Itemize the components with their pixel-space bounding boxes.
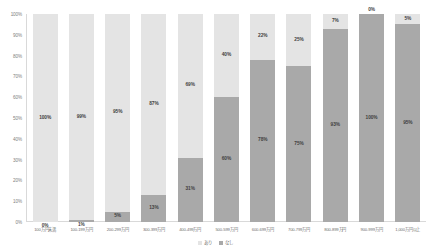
- bar-segment-nashi[interactable]: 13%: [141, 195, 166, 222]
- x-axis-labels: 100万円未満100-199万円200-299万円300-399万円400-49…: [27, 228, 426, 232]
- chart-legend: ありなし: [0, 241, 431, 245]
- legend-item[interactable]: なし: [219, 241, 233, 245]
- bar-value-label-nashi: 78%: [258, 138, 267, 143]
- bar-value-label-ari: 40%: [222, 53, 231, 58]
- bar-segment-nashi[interactable]: 95%: [395, 24, 420, 222]
- legend-label: あり: [204, 241, 212, 245]
- bar-group: 22%78%: [245, 14, 281, 222]
- bar-group: 0%100%: [353, 14, 389, 222]
- bar-segment-nashi[interactable]: 75%: [286, 66, 311, 222]
- stacked-bar[interactable]: 22%78%: [250, 14, 275, 222]
- bar-segment-ari[interactable]: 87%: [141, 14, 166, 195]
- bar-segment-ari[interactable]: 100%: [33, 14, 58, 222]
- bar-segment-nashi[interactable]: 78%: [250, 60, 275, 222]
- bar-value-label-ari: 7%: [332, 19, 339, 24]
- x-axis-tick: 600-699万円: [245, 228, 281, 232]
- stacked-bar[interactable]: 40%60%: [214, 14, 239, 222]
- bar-group: 5%95%: [390, 14, 426, 222]
- x-axis-tick: 100-199万円: [63, 228, 99, 232]
- bar-value-label-ari: 95%: [113, 110, 122, 115]
- legend-label: なし: [225, 241, 233, 245]
- legend-item[interactable]: あり: [198, 241, 212, 245]
- bar-value-label-nashi: 5%: [114, 214, 121, 219]
- y-axis-tick: 100%: [0, 12, 22, 17]
- bar-segment-ari[interactable]: 40%: [214, 14, 239, 97]
- bar-value-label-nashi: 13%: [149, 206, 158, 211]
- bar-segment-nashi[interactable]: 93%: [323, 29, 348, 222]
- bar-group: 69%31%: [172, 14, 208, 222]
- bar-value-label-ari: 22%: [258, 34, 267, 39]
- bar-group: 40%60%: [208, 14, 244, 222]
- x-axis-tick: 900-999万円: [353, 228, 389, 232]
- legend-swatch-icon: [198, 241, 202, 245]
- bar-group: 7%93%: [317, 14, 353, 222]
- y-axis-tick: 40%: [0, 136, 22, 141]
- legend-swatch-icon: [219, 241, 223, 245]
- x-axis-tick: 400-499万円: [172, 228, 208, 232]
- bar-value-label-nashi: 31%: [186, 187, 195, 192]
- bar-group: 87%13%: [136, 14, 172, 222]
- bar-segment-nashi[interactable]: 5%: [105, 212, 130, 222]
- bar-value-label-ari: 99%: [77, 115, 86, 120]
- bar-group: 100%0%: [27, 14, 63, 222]
- bar-value-label-nashi: 75%: [294, 142, 303, 147]
- bar-segment-ari[interactable]: 95%: [105, 14, 130, 212]
- bar-value-label-ari: 87%: [149, 102, 158, 107]
- bar-value-label-ari: 5%: [404, 17, 411, 22]
- stacked-bar[interactable]: 95%5%: [105, 14, 130, 222]
- y-axis-tick: 70%: [0, 74, 22, 79]
- bar-segment-nashi[interactable]: 31%: [178, 158, 203, 222]
- bar-value-label-nashi: 60%: [222, 157, 231, 162]
- stacked-bar-chart: 100%90%80%70%60%50%40%30%20%10%0% 100%0%…: [0, 0, 431, 252]
- y-axis-tick: 60%: [0, 95, 22, 100]
- bar-segment-ari[interactable]: 99%: [69, 14, 94, 220]
- stacked-bar[interactable]: 87%13%: [141, 14, 166, 222]
- bar-segment-ari[interactable]: 5%: [395, 14, 420, 24]
- bar-value-label-ari: 69%: [186, 83, 195, 88]
- x-axis-tick: 300-399万円: [136, 228, 172, 232]
- bar-value-label-nashi: 100%: [366, 116, 378, 121]
- bar-value-label-nashi: 95%: [403, 121, 412, 126]
- y-axis-tick: 20%: [0, 178, 22, 183]
- bar-segment-nashi[interactable]: 60%: [214, 97, 239, 222]
- bar-value-label-ari: 0%: [368, 8, 375, 13]
- y-axis-tick: 90%: [0, 32, 22, 37]
- bar-value-label-nashi: 93%: [331, 123, 340, 128]
- bar-value-label-ari: 25%: [294, 38, 303, 43]
- x-axis-tick: 800-899万円: [317, 228, 353, 232]
- y-axis-tick: 50%: [0, 116, 22, 121]
- y-axis-tick: 10%: [0, 199, 22, 204]
- x-axis-tick: 700-799万円: [281, 228, 317, 232]
- bar-segment-ari[interactable]: 7%: [323, 14, 348, 29]
- y-axis-labels: 100%90%80%70%60%50%40%30%20%10%0%: [0, 14, 24, 222]
- bar-segment-ari[interactable]: 69%: [178, 14, 203, 158]
- x-axis-tick: 200-299万円: [100, 228, 136, 232]
- x-axis-tick: 100万円未満: [27, 228, 63, 232]
- bar-group: 99%1%: [63, 14, 99, 222]
- bar-segment-nashi[interactable]: 1%: [69, 220, 94, 222]
- stacked-bar[interactable]: 0%100%: [359, 14, 384, 222]
- stacked-bar[interactable]: 7%93%: [323, 14, 348, 222]
- y-axis-tick: 0%: [0, 220, 22, 225]
- stacked-bar[interactable]: 100%0%: [33, 14, 58, 222]
- bar-group: 25%75%: [281, 14, 317, 222]
- stacked-bar[interactable]: 25%75%: [286, 14, 311, 222]
- stacked-bar[interactable]: 69%31%: [178, 14, 203, 222]
- x-axis-tick: 1,000万円以上: [390, 228, 426, 232]
- y-axis-tick: 30%: [0, 157, 22, 162]
- y-axis-tick: 80%: [0, 53, 22, 58]
- x-axis-tick: 500-599万円: [208, 228, 244, 232]
- bar-value-label-ari: 100%: [39, 116, 51, 121]
- bar-segment-ari[interactable]: 22%: [250, 14, 275, 60]
- bar-segment-nashi[interactable]: 100%: [359, 14, 384, 222]
- bar-segment-ari[interactable]: 25%: [286, 14, 311, 66]
- stacked-bar[interactable]: 99%1%: [69, 14, 94, 222]
- bar-group: 95%5%: [100, 14, 136, 222]
- stacked-bar[interactable]: 5%95%: [395, 14, 420, 222]
- bar-series-container: 100%0%99%1%95%5%87%13%69%31%40%60%22%78%…: [27, 14, 426, 222]
